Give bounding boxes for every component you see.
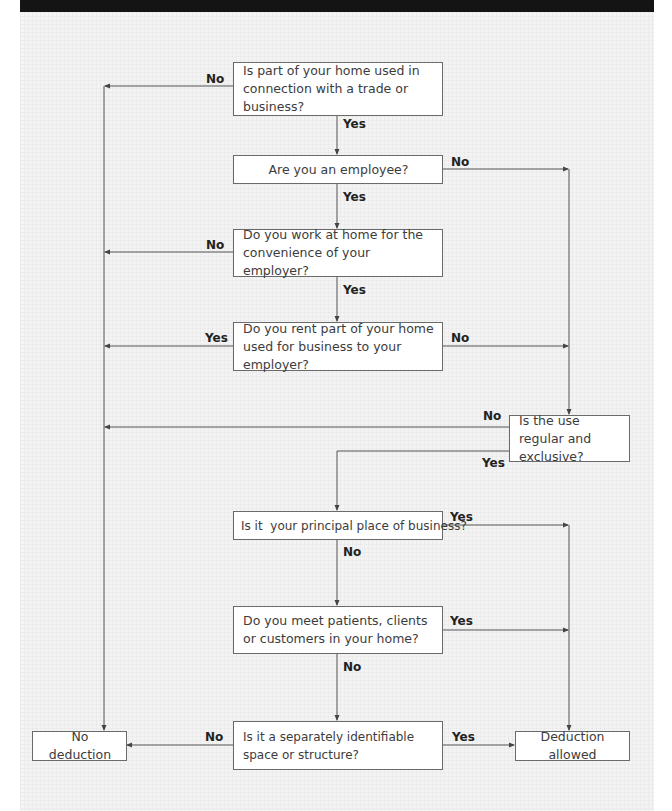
decision-meet-clients: Do you meet patients, clients or custome…	[233, 606, 443, 654]
node-text: Is the use regular and exclusive?	[519, 412, 621, 466]
edge-label-q1-yes: Yes	[343, 117, 366, 131]
edge-label-q5-no: No	[483, 409, 501, 423]
edge-label-q4-yes: Yes	[205, 331, 228, 345]
node-text: Is it your principal place of business?	[241, 517, 467, 535]
node-text: Do you meet patients, clients or custome…	[243, 612, 434, 648]
edge-label-q7-yes: Yes	[450, 614, 473, 628]
connector-lines	[0, 0, 672, 811]
edge-label-q8-no: No	[205, 730, 223, 744]
edge-label-q1-no: No	[206, 72, 224, 86]
edge-label-q8-yes: Yes	[452, 730, 475, 744]
decision-employee: Are you an employee?	[233, 155, 443, 184]
edge-label-q5-yes: Yes	[482, 456, 505, 470]
node-text: Are you an employee?	[269, 161, 409, 179]
decision-convenience-of-employer: Do you work at home for the convenience …	[233, 229, 443, 277]
edge-label-q6-no: No	[343, 545, 361, 559]
edge-label-q6-yes: Yes	[450, 510, 473, 524]
decision-separate-structure: Is it a separately identifiable space or…	[233, 721, 443, 770]
node-text: Is part of your home used in connection …	[243, 62, 434, 116]
edge-label-q2-yes: Yes	[343, 190, 366, 204]
edge-label-q2-no: No	[451, 155, 469, 169]
decision-regular-and-exclusive: Is the use regular and exclusive?	[509, 415, 630, 462]
node-text: Do you work at home for the convenience …	[243, 226, 434, 280]
edge-label-q3-yes: Yes	[343, 283, 366, 297]
outcome-no-deduction: No deduction	[32, 731, 127, 761]
edge-label-q7-no: No	[343, 660, 361, 674]
node-text: No deduction	[42, 728, 118, 764]
decision-principal-place: Is it your principal place of business?	[233, 511, 443, 540]
node-text: Deduction allowed	[516, 728, 629, 764]
decision-trade-or-business: Is part of your home used in connection …	[233, 62, 443, 116]
node-text: Is it a separately identifiable space or…	[243, 728, 434, 764]
edge-label-q3-no: No	[206, 238, 224, 252]
decision-rent-to-employer: Do you rent part of your home used for b…	[233, 322, 443, 371]
node-text: Do you rent part of your home used for b…	[243, 320, 434, 374]
outcome-deduction-allowed: Deduction allowed	[515, 731, 630, 761]
edge-label-q4-no: No	[451, 331, 469, 345]
